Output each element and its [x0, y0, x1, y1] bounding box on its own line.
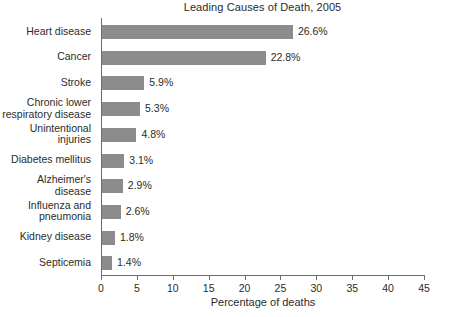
x-axis-tick: [352, 275, 353, 280]
bar-value-label: 22.8%: [271, 50, 301, 65]
bar-value-label: 2.6%: [126, 204, 150, 219]
chart-title: Leading Causes of Death, 2005: [0, 1, 449, 13]
category-label: Heart disease: [0, 26, 96, 38]
x-axis-tick: [137, 275, 138, 280]
x-axis-tick-label: 25: [275, 282, 287, 294]
category-label: Influenza and pneumonia: [0, 200, 96, 223]
bar: [102, 256, 112, 270]
category-label: Cancer: [0, 51, 96, 63]
bar: [102, 128, 136, 142]
x-axis-tick-label: 45: [418, 282, 430, 294]
category-label: Stroke: [0, 77, 96, 89]
x-axis-tick-label: 40: [382, 282, 394, 294]
bar: [102, 25, 293, 39]
category-label: Unintentional injuries: [0, 123, 96, 146]
x-axis-tick: [173, 275, 174, 280]
x-axis-tick: [388, 275, 389, 280]
category-label: Kidney disease: [0, 231, 96, 243]
x-axis-tick: [245, 275, 246, 280]
bar-chart-figure: Leading Causes of Death, 2005 Heart dise…: [0, 0, 449, 317]
bar: [102, 76, 144, 90]
bar: [102, 154, 124, 168]
x-axis-tick-label: 0: [98, 282, 104, 294]
bar-value-label: 1.8%: [120, 230, 144, 245]
bar-value-label: 5.3%: [145, 101, 169, 116]
bar: [102, 205, 121, 219]
x-axis-tick-label: 15: [203, 282, 215, 294]
x-axis-tick-label: 10: [167, 282, 179, 294]
x-axis-tick: [280, 275, 281, 280]
x-axis-tick-label: 35: [346, 282, 358, 294]
category-label: Alzheimer's disease: [0, 174, 96, 197]
category-label: Diabetes mellitus: [0, 154, 96, 166]
category-label: Septicemia: [0, 257, 96, 269]
plot-area: 26.6%22.8%5.9%5.3%4.8%3.1%2.9%2.6%1.8%1.…: [101, 18, 424, 275]
category-axis-labels: Heart diseaseCancerStrokeChronic lower r…: [0, 18, 96, 275]
x-axis-tick: [101, 275, 102, 280]
bar: [102, 51, 266, 65]
x-axis-tick: [424, 275, 425, 280]
bar-value-label: 3.1%: [129, 153, 153, 168]
x-axis-tick-label: 5: [134, 282, 140, 294]
bar-value-label: 2.9%: [128, 178, 152, 193]
bar-value-label: 5.9%: [149, 75, 173, 90]
x-axis-tick: [316, 275, 317, 280]
bar-value-label: 1.4%: [117, 255, 141, 270]
bar: [102, 102, 140, 116]
x-axis-tick-label: 20: [239, 282, 251, 294]
bar: [102, 179, 123, 193]
category-label: Chronic lower respiratory disease: [0, 97, 96, 120]
x-axis-title: Percentage of deaths: [101, 296, 425, 308]
x-axis-tick: [209, 275, 210, 280]
bar-value-label: 4.8%: [141, 127, 165, 142]
x-axis-tick-label: 30: [310, 282, 322, 294]
x-axis-line: [101, 275, 425, 276]
bar: [102, 231, 115, 245]
bar-value-label: 26.6%: [298, 24, 328, 39]
